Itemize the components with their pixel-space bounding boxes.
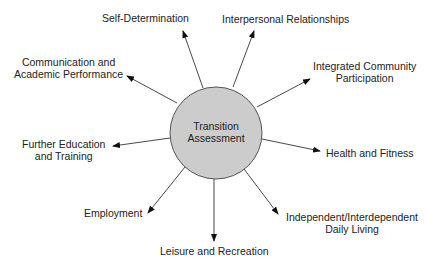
arrow-independent-living: [244, 169, 278, 214]
center-label: Transition Assessment: [176, 120, 256, 144]
center-label-line2: Assessment: [176, 132, 256, 144]
node-independent-interdependent-daily-living: Independent/Interdependent Daily Living: [286, 211, 418, 235]
node-self-determination: Self-Determination: [102, 12, 189, 24]
node-further-education-and-training: Further Education and Training: [22, 138, 105, 162]
node-leisure-and-recreation: Leisure and Recreation: [160, 245, 269, 257]
arrow-further-education: [113, 138, 170, 146]
node-health-and-fitness: Health and Fitness: [326, 147, 414, 159]
node-integrated-community-participation: Integrated Community Participation: [313, 60, 416, 84]
center-label-line1: Transition: [176, 120, 256, 132]
arrow-communication: [127, 76, 177, 103]
arrow-health-and-fitness: [262, 139, 320, 151]
arrow-self-determination: [183, 31, 203, 88]
node-communication-and-academic-performance: Communication and Academic Performance: [14, 56, 123, 80]
arrow-employment: [148, 167, 185, 213]
arrow-interpersonal-relationships: [233, 31, 254, 87]
node-employment: Employment: [84, 207, 142, 219]
arrow-integrated-community: [257, 79, 310, 107]
node-interpersonal-relationships: Interpersonal Relationships: [222, 13, 349, 25]
